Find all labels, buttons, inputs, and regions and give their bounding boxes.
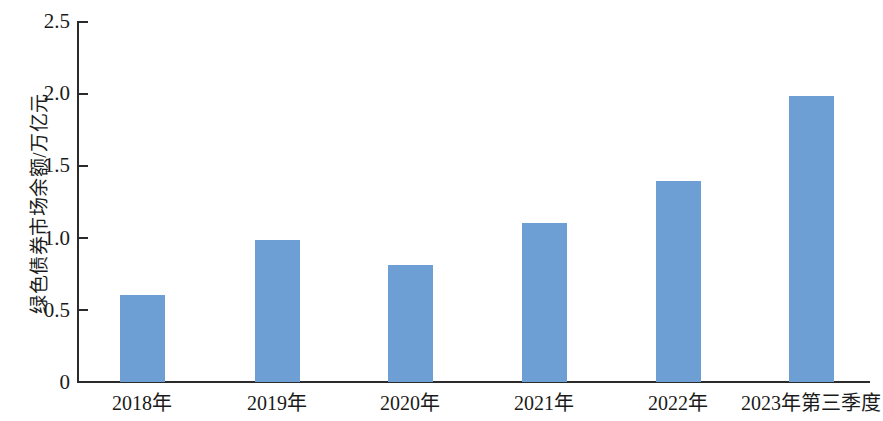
y-tick-label-0-5: 0.5 bbox=[0, 300, 70, 321]
y-tick-mark-1-5 bbox=[79, 165, 88, 167]
x-tick-label-2019: 2019年 bbox=[217, 392, 337, 414]
y-tick-label-2-0: 2.0 bbox=[0, 83, 70, 104]
x-tick-label-2018: 2018年 bbox=[82, 392, 202, 414]
bar-chart: 绿色债券市场余额/万亿元 2.5 2.0 1.5 1.0 0.5 0 2018年… bbox=[0, 0, 883, 421]
bar-2020 bbox=[388, 265, 433, 382]
bar-2019 bbox=[255, 240, 300, 382]
bar-2023-q3 bbox=[789, 96, 834, 382]
y-tick-mark-1-0 bbox=[79, 237, 88, 239]
y-tick-label-1-0: 1.0 bbox=[0, 228, 70, 249]
y-tick-label-2-5: 2.5 bbox=[0, 11, 70, 32]
y-axis-line bbox=[77, 21, 79, 383]
y-tick-mark-0-5 bbox=[79, 309, 88, 311]
x-axis-line bbox=[78, 381, 870, 383]
y-tick-mark-2-0 bbox=[79, 93, 88, 95]
bar-2021 bbox=[522, 223, 567, 382]
x-tick-label-2022: 2022年 bbox=[618, 392, 738, 414]
x-tick-label-2023-q3: 2023年第三季度 bbox=[731, 392, 883, 414]
y-tick-mark-2-5 bbox=[79, 21, 88, 23]
bar-2018 bbox=[120, 295, 165, 382]
x-tick-label-2021: 2021年 bbox=[484, 392, 604, 414]
y-tick-label-1-5: 1.5 bbox=[0, 155, 70, 176]
x-tick-label-2020: 2020年 bbox=[350, 392, 470, 414]
bar-2022 bbox=[656, 181, 701, 382]
y-tick-label-0: 0 bbox=[0, 372, 70, 393]
